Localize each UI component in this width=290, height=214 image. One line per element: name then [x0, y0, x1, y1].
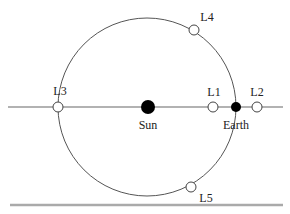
- sun-body: [141, 100, 155, 114]
- l5-point: [186, 182, 196, 192]
- l3-label: L3: [53, 84, 66, 98]
- earth-label: Earth: [223, 118, 249, 132]
- lagrange-diagram: Sun Earth L1 L2 L3 L4 L5: [0, 0, 290, 214]
- l1-label: L1: [207, 85, 220, 99]
- l3-point: [53, 102, 63, 112]
- l1-point: [208, 102, 218, 112]
- l5-label: L5: [199, 191, 212, 205]
- l2-label: L2: [250, 85, 263, 99]
- earth-body: [231, 102, 241, 112]
- l4-point: [189, 25, 199, 35]
- sun-label: Sun: [139, 118, 158, 132]
- l2-point: [252, 102, 262, 112]
- l4-label: L4: [200, 10, 213, 24]
